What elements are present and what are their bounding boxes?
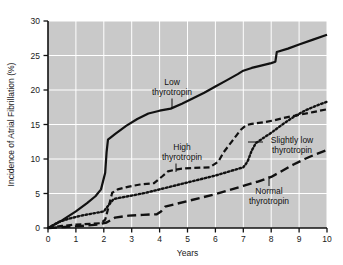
- x-tick-label-1: 1: [74, 234, 79, 244]
- x-tick-label-7: 7: [241, 234, 246, 244]
- annotation-slightly-low-thyrotropin-line1: Slightly low: [271, 135, 314, 145]
- x-tick-label-4: 4: [157, 234, 162, 244]
- x-tick-label-0: 0: [46, 234, 51, 244]
- annotation-high-thyrotropin-line2: thyrotropin: [162, 152, 202, 162]
- annotation-normal-thyrotropin-line1: Normal: [255, 186, 283, 196]
- y-tick-label-10: 10: [31, 154, 41, 164]
- annotation-slightly-low-thyrotropin-line2: thyrotropin: [272, 145, 312, 155]
- y-tick-label-30: 30: [31, 16, 41, 26]
- x-tick-label-2: 2: [101, 234, 106, 244]
- annotation-normal-thyrotropin-line2: thyrotropin: [249, 196, 289, 206]
- x-tick-label-10: 10: [322, 234, 332, 244]
- x-tick-label-9: 9: [297, 234, 302, 244]
- incidence-of-atrial-fibrillation-chart: 051015202530 012345678910 Years Incidenc…: [0, 0, 343, 265]
- y-tick-label-15: 15: [31, 120, 41, 130]
- y-tick-label-5: 5: [35, 189, 40, 199]
- annotation-low-thyrotropin-line1: Low: [164, 77, 180, 87]
- y-axis-title: Incidence of Atrial Fibrillation (%): [6, 62, 16, 186]
- annotation-low-thyrotropin-line2: thyrotropin: [152, 87, 192, 97]
- y-tick-label-0: 0: [35, 223, 40, 233]
- x-tick-label-8: 8: [269, 234, 274, 244]
- chart-figure: 051015202530 012345678910 Years Incidenc…: [0, 0, 343, 265]
- x-tick-label-3: 3: [129, 234, 134, 244]
- y-axis-ticks: 051015202530: [31, 16, 48, 233]
- y-tick-label-25: 25: [31, 51, 41, 61]
- x-axis-title: Years: [177, 248, 198, 258]
- x-axis-ticks: 012345678910: [46, 228, 332, 244]
- x-tick-label-6: 6: [213, 234, 218, 244]
- annotation-high-thyrotropin-line1: High: [173, 142, 191, 152]
- x-tick-label-5: 5: [185, 234, 190, 244]
- y-tick-label-20: 20: [31, 85, 41, 95]
